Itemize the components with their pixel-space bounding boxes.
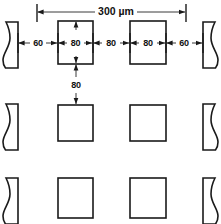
dimension-label-60-left: 60 [33, 38, 43, 48]
pad-square-row-2-col-2 [130, 105, 166, 141]
horizontal-dimension-chain: 60 80 80 80 60 [18, 33, 203, 53]
pad-square-row-3-col-2 [130, 178, 166, 218]
dimension-label-60-right: 60 [179, 38, 189, 48]
dimension-label-80-square-2: 80 [143, 38, 153, 48]
dimension-label-80-vertical: 80 [71, 80, 81, 90]
break-symbol-left-row-2 [3, 104, 18, 150]
pad-square-row-3-col-1 [58, 178, 93, 218]
break-symbol-right-row-2 [203, 104, 218, 150]
diagram-canvas: 300 µm 60 80 [0, 0, 221, 224]
break-symbol-left-row-3 [3, 178, 18, 224]
overall-dimension-300um: 300 µm [37, 4, 186, 22]
break-symbol-left-row-1 [3, 22, 18, 68]
pad-square-row-2-col-1 [58, 105, 93, 141]
overall-dimension-label: 300 µm [98, 5, 134, 17]
dimension-label-80-gap: 80 [106, 38, 116, 48]
dimension-diagram: 300 µm 60 80 [0, 0, 221, 224]
break-symbol-right-row-3 [203, 178, 218, 224]
break-symbol-right-row-1 [203, 22, 218, 68]
dimension-label-80-square-1: 80 [71, 38, 81, 48]
